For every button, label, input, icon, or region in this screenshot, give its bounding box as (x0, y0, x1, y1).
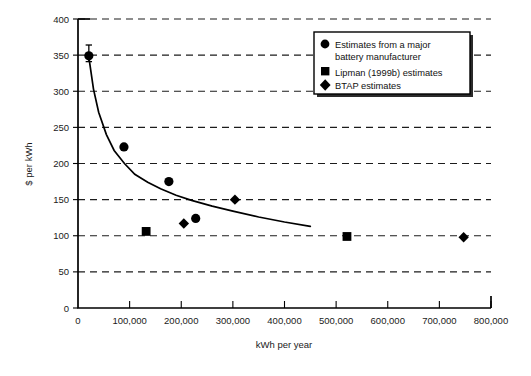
y-tick-label: 400 (53, 14, 69, 25)
data-point-square-1-1 (343, 232, 352, 241)
x-tick-label: 600,000 (371, 315, 405, 326)
legend-entry-0-label-line1: Estimates from a major (335, 40, 431, 50)
chart-legend: Estimates from a major battery manufactu… (314, 32, 473, 97)
data-point-circle-0-2 (164, 177, 173, 186)
x-tick-label: 100,000 (112, 315, 146, 326)
x-tick-label: 300,000 (216, 315, 250, 326)
x-tick-label: 200,000 (164, 315, 198, 326)
filled-square-icon (321, 67, 329, 75)
x-tick-label: 500,000 (319, 315, 353, 326)
data-point-circle-0-1 (119, 142, 128, 151)
data-point-circle-0-3 (191, 214, 200, 223)
x-tick-label: 400,000 (267, 315, 301, 326)
y-tick-label: 300 (53, 86, 69, 97)
y-tick-label: 100 (53, 230, 69, 241)
legend-entry-0-label-line2: battery manufacturer (335, 52, 421, 62)
data-point-square-1-0 (142, 227, 151, 236)
chart-figure: 050100150200250300350400 0100,000200,000… (0, 0, 531, 376)
y-tick-label: 250 (53, 122, 69, 133)
y-tick-label: 150 (53, 194, 69, 205)
x-tick-label-group: 0100,000200,000300,000400,000500,000600,… (75, 315, 508, 326)
scatter-plot-svg: 050100150200250300350400 0100,000200,000… (0, 0, 531, 376)
y-axis-title: $ per kWh (23, 142, 34, 185)
filled-circle-icon (321, 40, 330, 49)
x-axis-title: kWh per year (256, 339, 313, 350)
y-tick-label: 50 (58, 266, 69, 277)
x-tick-label: 700,000 (422, 315, 456, 326)
legend-entry-1-label-line1: Lipman (1999b) estimates (335, 68, 443, 78)
legend-entry-2-label-line1: BTAP estimates (335, 81, 401, 91)
y-tick-label: 200 (53, 158, 69, 169)
x-tick-label: 800,000 (474, 315, 508, 326)
x-tick-label: 0 (75, 315, 80, 326)
y-tick-label: 350 (53, 50, 69, 61)
y-tick-label: 0 (64, 303, 69, 314)
data-point-circle-0-0 (84, 51, 93, 60)
